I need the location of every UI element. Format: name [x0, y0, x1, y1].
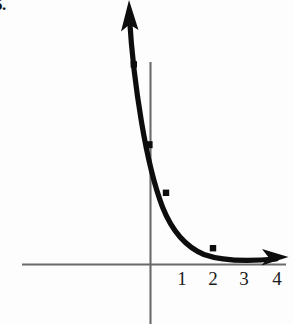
curve-data-point: [163, 190, 169, 196]
curve-data-point: [131, 61, 137, 67]
curve-data-point: [210, 245, 216, 251]
x-tick-label-3: 3: [234, 269, 254, 288]
x-tick-label-2: 2: [203, 269, 223, 288]
exponential-decay-figure: 5. 1 2 3 4: [0, 0, 293, 324]
curve-data-point: [146, 141, 153, 148]
x-tick-label-1: 1: [172, 269, 192, 288]
x-tick-label-4: 4: [267, 269, 287, 288]
